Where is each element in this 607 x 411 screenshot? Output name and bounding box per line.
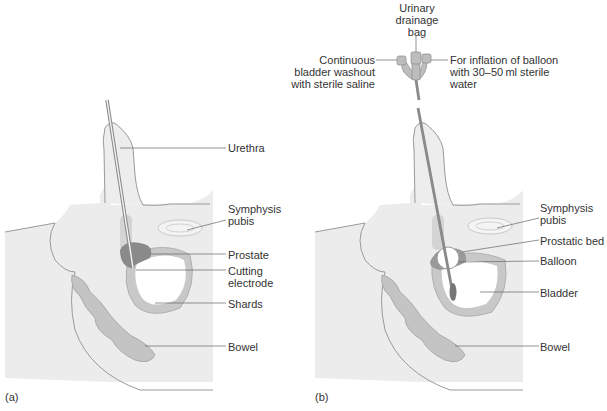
label-bladder: Bladder [540,287,578,299]
panel-a-illustration [5,100,226,390]
caption-b: (b) [315,391,328,403]
label-balloon: Balloon [540,255,577,267]
label-symphysis-pubis-line1-b: Symphysis [540,202,593,214]
label-bowel-b: Bowel [540,341,570,353]
label-shards: Shards [228,298,263,310]
caption-a: (a) [5,391,18,403]
label-cutting-electrode-line2: electrode [228,277,273,289]
label-cutting-electrode-line1: Cutting [228,265,263,277]
label-bowel-a: Bowel [228,341,258,353]
label-washout-line1: Continuous [270,54,375,66]
label-prostatic-bed: Prostatic bed [540,235,604,247]
label-washout-line3: with sterile saline [270,78,375,90]
label-symphysis-pubis-line2-a: pubis [228,215,254,227]
label-drainage-line3: bag [396,26,438,38]
label-prostate: Prostate [228,249,269,261]
label-drainage-line1: Urinary [396,2,438,14]
label-drainage-line2: drainage [393,14,441,26]
label-washout-line2: bladder washout [270,66,375,78]
bladder-lumen-a [135,255,185,304]
three-way-connector-b [397,52,431,80]
label-inflation-line2: with 30–50 ml sterile [450,66,549,78]
label-urethra: Urethra [228,142,265,154]
label-symphysis-pubis-line2-b: pubis [540,214,566,226]
label-symphysis-pubis-line1-a: Symphysis [228,203,281,215]
label-inflation-line3: water [450,78,477,90]
catheter-upper-b [416,80,419,100]
label-inflation-line1: For inflation of balloon [450,54,558,66]
